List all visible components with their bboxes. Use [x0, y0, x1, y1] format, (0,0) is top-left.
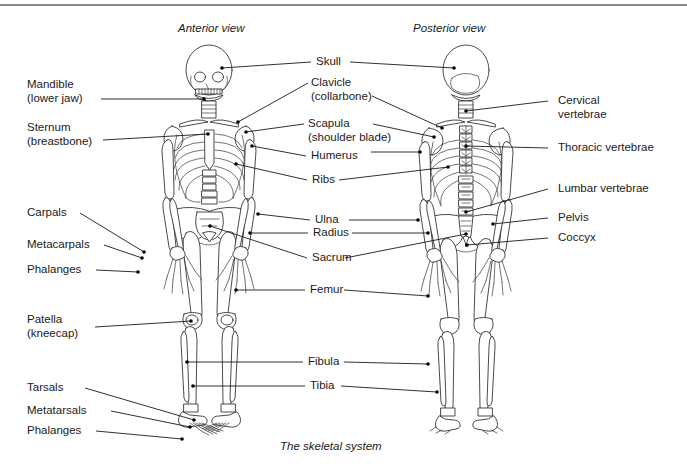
point-ulna-anterior [256, 212, 260, 216]
label-patella-line2: (kneecap) [27, 327, 78, 341]
point-tarsals [192, 418, 196, 422]
label-coccyx: Coccyx [558, 231, 596, 245]
point-femur-anterior [234, 288, 238, 292]
label-phalanges-foot: Phalanges [27, 424, 81, 438]
label-thoracic-vertebrae: Thoracic vertebrae [558, 141, 654, 155]
label-sternum-line1: Sternum [27, 121, 70, 133]
label-scapula-line2: (shoulder blade) [308, 131, 391, 145]
point-tibia-anterior [191, 384, 195, 388]
label-metatarsals: Metatarsals [27, 404, 86, 418]
label-clavicle-line1: Clavicle [311, 76, 351, 88]
label-clavicle: Clavicle (collarbone) [311, 76, 372, 103]
point-patella [189, 319, 193, 323]
label-tarsals: Tarsals [27, 381, 63, 395]
label-ribs: Ribs [312, 173, 335, 187]
point-cervical-vertebrae [464, 109, 468, 113]
label-phalanges-hand: Phalanges [27, 263, 81, 277]
label-skull: Skull [316, 55, 341, 69]
point-ulna-posterior [416, 218, 420, 222]
posterior-skeleton [419, 45, 513, 434]
label-metacarpals: Metacarpals [27, 238, 90, 252]
label-pelvis: Pelvis [558, 211, 589, 225]
label-scapula-line1: Scapula [308, 117, 350, 129]
label-humerus: Humerus [311, 149, 358, 163]
point-humerus-posterior [418, 150, 422, 154]
point-radius-posterior [426, 231, 430, 235]
label-clavicle-line2: (collarbone) [311, 90, 372, 104]
figure-caption: The skeletal system [280, 440, 382, 452]
label-mandible-line1: Mandible [27, 78, 74, 90]
point-phalanges-hand [136, 270, 140, 274]
point-sacrum-posterior [464, 232, 468, 236]
point-phalanges-foot [180, 437, 184, 441]
label-fibula: Fibula [308, 355, 339, 369]
label-sternum: Sternum (breastbone) [27, 121, 92, 148]
point-sternum [206, 132, 210, 136]
point-coccyx [465, 243, 469, 247]
top-divider-rule [0, 4, 687, 6]
label-lumbar-vertebrae: Lumbar vertebrae [558, 182, 649, 196]
label-femur: Femur [310, 283, 343, 297]
point-lumbar-vertebrae [464, 210, 468, 214]
point-mandible [202, 97, 206, 101]
point-skull-posterior [452, 66, 456, 70]
point-clavicle-anterior [236, 120, 240, 124]
point-pelvis [491, 222, 495, 226]
point-clavicle-posterior [440, 126, 444, 130]
point-metacarpals [140, 256, 144, 260]
point-radius-anterior [248, 231, 252, 235]
label-mandible: Mandible (lower jaw) [27, 78, 83, 105]
view-title-anterior: Anterior view [178, 22, 244, 34]
label-sacrum: Sacrum [312, 251, 352, 265]
view-title-posterior: Posterior view [413, 22, 485, 34]
label-tibia: Tibia [310, 379, 335, 393]
label-ulna: Ulna [315, 213, 339, 227]
anterior-skeleton [162, 45, 256, 435]
point-thoracic-vertebrae [464, 144, 468, 148]
point-fibula-anterior [185, 360, 189, 364]
label-scapula: Scapula (shoulder blade) [308, 117, 391, 144]
label-cervical-vertebrae: Cervical vertebrae [558, 94, 607, 121]
label-patella: Patella (kneecap) [27, 313, 78, 340]
label-sternum-line2: (breastbone) [27, 135, 92, 149]
label-cervical-vertebrae-line1: Cervical [558, 94, 600, 106]
label-cervical-vertebrae-line2: vertebrae [558, 108, 607, 122]
point-femur-posterior [426, 294, 430, 298]
point-ribs-anterior [234, 162, 238, 166]
skeletal-system-figure: Anterior view Posterior view [0, 0, 687, 476]
label-mandible-line2: (lower jaw) [27, 92, 83, 106]
label-radius: Radius [313, 226, 349, 240]
point-tibia-posterior [435, 390, 439, 394]
point-carpals [142, 250, 146, 254]
point-scapula-anterior [244, 130, 248, 134]
point-skull-anterior [220, 66, 224, 70]
point-ribs-posterior [446, 165, 450, 169]
label-patella-line1: Patella [27, 313, 62, 325]
point-sacrum-anterior [208, 224, 212, 228]
point-humerus-anterior [250, 144, 254, 148]
point-scapula-posterior [432, 135, 436, 139]
point-metatarsals [188, 425, 192, 429]
point-fibula-posterior [426, 362, 430, 366]
label-carpals: Carpals [27, 206, 67, 220]
